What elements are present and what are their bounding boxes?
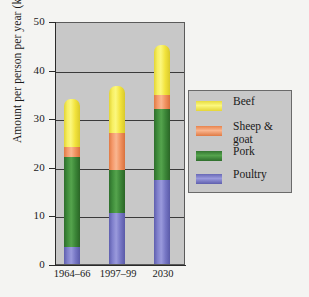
y-tick-50 (49, 22, 56, 23)
legend-label-pork: Pork (233, 145, 255, 158)
sheep-goat-swatch-icon (196, 126, 222, 136)
y-tick-label-0: 0 (15, 259, 45, 270)
bar-2030 (154, 21, 170, 264)
bar-segment-sheep-goat (64, 147, 80, 157)
x-tick-label-2030: 2030 (133, 268, 193, 280)
bar-segment-beef (154, 45, 170, 95)
y-axis-title: Amount per person per year (kg) (11, 0, 23, 143)
poultry-swatch-icon (196, 174, 222, 184)
legend-label-poultry: Poultry (233, 168, 267, 181)
bar-segment-poultry (154, 180, 170, 264)
bar-1964-66 (64, 21, 80, 264)
bar-segment-sheep-goat (109, 133, 125, 170)
x-axis-line (55, 265, 186, 266)
bar-segment-beef (64, 99, 80, 148)
bar-1997-99 (109, 21, 125, 264)
pork-swatch-icon (196, 151, 222, 161)
bar-segment-beef (109, 86, 125, 133)
bar-segment-poultry (64, 247, 80, 264)
bar-segment-poultry (109, 213, 125, 264)
legend-item-poultry: Poultry (189, 170, 291, 194)
legend-label-sheep-goat: Sheep & goat (233, 120, 273, 145)
legend: Beef Sheep & goat Pork Poultry (188, 90, 292, 193)
stacked-bar-chart: 50 40 30 20 10 0 Amount per person per y… (0, 0, 309, 297)
bar-segment-sheep-goat (154, 95, 170, 108)
plot-area (55, 22, 185, 265)
bar-segment-pork (109, 170, 125, 213)
legend-label-beef: Beef (233, 95, 255, 108)
y-tick-label-10: 10 (15, 210, 45, 221)
bar-segment-pork (64, 157, 80, 247)
y-tick-20 (49, 168, 56, 169)
y-tick-30 (49, 119, 56, 120)
legend-item-sheep-goat: Sheep & goat (189, 122, 291, 146)
y-tick-10 (49, 216, 56, 217)
bar-segment-pork (154, 109, 170, 180)
y-axis-title-wrapper: Amount per person per year (kg) (7, 0, 23, 171)
y-tick-40 (49, 71, 56, 72)
beef-swatch-icon (196, 101, 222, 111)
legend-item-beef: Beef (189, 97, 291, 121)
y-axis-line (55, 22, 56, 266)
